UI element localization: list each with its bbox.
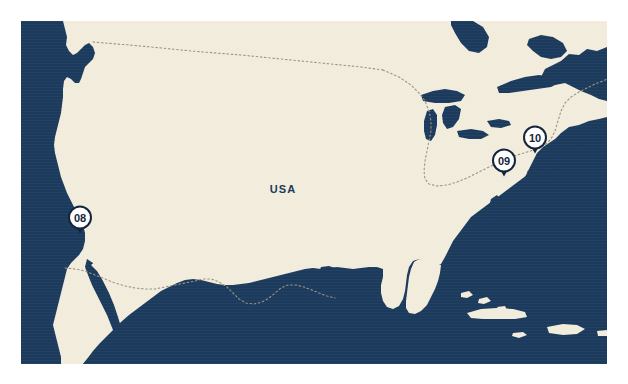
country-label-usa: USA — [270, 183, 297, 195]
marker-circle: 09 — [492, 149, 516, 173]
marker-label: 08 — [74, 212, 86, 223]
map-marker-08[interactable]: 08 — [68, 206, 92, 237]
marker-circle: 10 — [523, 126, 547, 150]
map-marker-10[interactable]: 10 — [523, 126, 547, 157]
marker-circle: 08 — [68, 206, 92, 230]
map-figure: USA 08 09 10 — [0, 0, 628, 384]
map-marker-09[interactable]: 09 — [492, 149, 516, 180]
map-canvas[interactable]: USA 08 09 10 — [21, 21, 607, 364]
map-vector-graphic — [21, 21, 607, 364]
puerto-rico-island — [597, 330, 607, 336]
marker-label: 09 — [498, 155, 510, 166]
gulf-coast-notch — [319, 266, 335, 274]
marker-label: 10 — [529, 132, 541, 143]
